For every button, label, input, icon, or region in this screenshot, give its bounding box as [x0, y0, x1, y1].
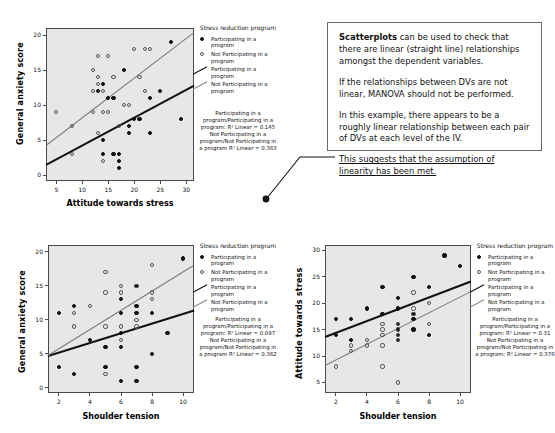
data-point-not-participating — [396, 327, 400, 331]
y-tick-mark — [43, 70, 46, 71]
legend-item[interactable]: Participating in a program — [198, 284, 278, 298]
callout-leader-line — [255, 140, 345, 215]
filled-circle-icon — [198, 36, 208, 43]
x-tick-label: 10 — [74, 186, 90, 193]
y-tick-label: 15 — [26, 66, 41, 73]
data-point-not-participating — [411, 306, 415, 310]
x-tick-label: 25 — [152, 186, 168, 193]
x-tick-mark — [134, 181, 135, 184]
data-point-not-participating — [111, 75, 115, 79]
legend-line-swatch — [193, 284, 208, 292]
data-point-participating — [365, 306, 369, 310]
x-tick-mark — [335, 393, 336, 396]
filled-circle-icon — [198, 254, 208, 261]
dark-line-icon — [475, 284, 485, 291]
y-tick-label: 20 — [26, 31, 41, 38]
chart-anxiety-vs-attitude: General anxiety score Attitude towards s… — [0, 6, 280, 211]
dark-line-icon — [198, 284, 208, 291]
legend-item-label: Participating in a program — [488, 284, 555, 298]
legend-marker — [200, 37, 204, 41]
x-tick-label: 10 — [452, 398, 468, 405]
legend-item-label: Not Participating in a program — [211, 269, 278, 283]
data-point-participating — [442, 253, 446, 257]
data-point-not-participating — [380, 343, 384, 347]
x-tick-mark — [58, 393, 59, 396]
y-tick-label: 0 — [26, 171, 41, 178]
y-tick-mark — [322, 356, 325, 357]
x-tick-mark — [82, 181, 83, 184]
data-point-participating — [119, 379, 123, 383]
y-tick-mark — [322, 250, 325, 251]
y-tick-label: 10 — [305, 352, 320, 359]
y-tick-label: 5 — [26, 136, 41, 143]
chart-attitude-vs-shoulder: Attitude towards stress Shoulder tension… — [285, 240, 553, 430]
data-point-not-participating — [91, 89, 95, 93]
data-point-participating — [134, 365, 138, 369]
legend-marker — [200, 52, 204, 56]
y-tick-label: 20 — [28, 248, 43, 255]
data-point-participating — [427, 333, 431, 337]
data-point-not-participating — [103, 270, 107, 274]
data-point-not-participating — [91, 68, 95, 72]
plot-area — [325, 245, 471, 393]
legend-title: Stress reduction program — [198, 24, 278, 32]
data-point-participating — [411, 275, 415, 279]
legend: Stress reduction programParticipating in… — [475, 242, 555, 315]
y-tick-mark — [45, 387, 48, 388]
y-tick-label: 25 — [305, 273, 320, 280]
legend-item[interactable]: Not Participating in a program — [198, 299, 278, 313]
y-tick-label: 5 — [305, 378, 320, 385]
x-tick-label: 6 — [390, 398, 406, 405]
legend-line-swatch — [193, 299, 208, 307]
data-point-not-participating — [148, 47, 152, 51]
legend-item[interactable]: Not Participating in a program — [198, 51, 278, 65]
open-circle-icon — [198, 269, 208, 276]
open-circle-icon — [475, 269, 485, 276]
x-tick-mark — [121, 393, 122, 396]
legend-item-label: Participating in a program — [211, 284, 278, 298]
callout-bold-term: Scatterplots — [339, 32, 397, 42]
legend: Stress reduction programParticipating in… — [198, 24, 278, 97]
legend-item[interactable]: Participating in a program — [198, 36, 278, 50]
gray-line-icon — [198, 81, 208, 88]
data-point-not-participating — [103, 372, 107, 376]
x-tick-mark — [89, 393, 90, 396]
x-tick-mark — [398, 393, 399, 396]
data-point-participating — [137, 117, 141, 121]
x-tick-label: 8 — [421, 398, 437, 405]
data-point-participating — [150, 352, 154, 356]
dark-line-icon — [198, 66, 208, 73]
x-tick-mark — [152, 393, 153, 396]
data-point-participating — [134, 379, 138, 383]
data-point-not-participating — [119, 324, 123, 328]
legend-item-label: Not Participating in a program — [488, 269, 555, 283]
legend-item[interactable]: Not Participating in a program — [475, 269, 555, 283]
data-point-not-participating — [365, 343, 369, 347]
x-axis-label: Shoulder tension — [48, 412, 194, 421]
data-point-not-participating — [134, 284, 138, 288]
filled-circle-icon — [475, 254, 485, 261]
legend-item[interactable]: Not Participating in a program — [198, 269, 278, 283]
x-tick-label: 30 — [178, 186, 194, 193]
legend-item[interactable]: Not Participating in a program — [198, 81, 278, 95]
data-point-participating — [181, 256, 185, 260]
y-tick-label: 15 — [305, 326, 320, 333]
y-tick-mark — [45, 285, 48, 286]
x-tick-label: 20 — [126, 186, 142, 193]
data-point-not-participating — [380, 327, 384, 331]
data-point-participating — [380, 312, 384, 316]
data-point-not-participating — [396, 333, 400, 337]
x-tick-label: 5 — [48, 186, 64, 193]
data-point-participating — [334, 333, 338, 337]
data-point-participating — [396, 306, 400, 310]
legend-item[interactable]: Participating in a program — [198, 66, 278, 80]
x-axis-label: Shoulder tension — [325, 412, 471, 421]
legend-item[interactable]: Not Participating in a program — [475, 299, 555, 313]
data-point-not-participating — [119, 284, 123, 288]
legend-item[interactable]: Participating in a program — [198, 254, 278, 268]
x-tick-mark — [160, 181, 161, 184]
legend-item[interactable]: Participating in a program — [475, 254, 555, 268]
legend-line-swatch — [470, 299, 485, 307]
y-tick-label: 20 — [305, 299, 320, 306]
legend-item[interactable]: Participating in a program — [475, 284, 555, 298]
